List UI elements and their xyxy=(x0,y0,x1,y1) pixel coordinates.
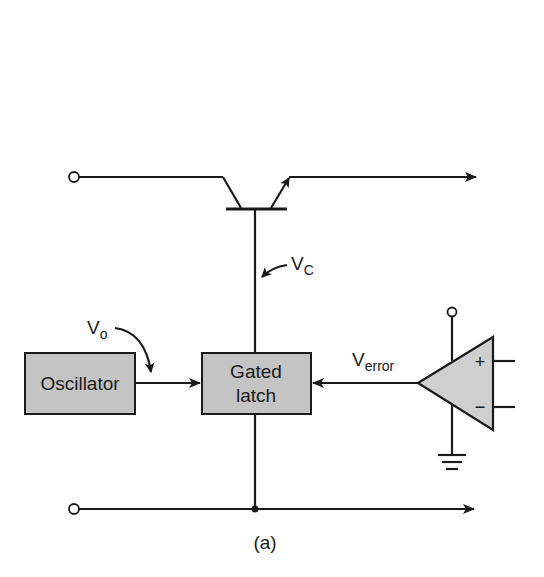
verror-label: Verror xyxy=(352,349,395,374)
minus-sign: − xyxy=(475,397,486,417)
bottom-input-terminal xyxy=(69,504,79,514)
gated-latch-label-line1: Gated xyxy=(230,361,282,382)
oscillator-label: Oscillator xyxy=(40,373,120,394)
error-amplifier: + − xyxy=(418,308,515,470)
vc-pointer-arrow xyxy=(262,265,287,277)
supply-terminal xyxy=(448,308,457,317)
oscillator-block: Oscillator xyxy=(25,353,135,414)
figure-caption: (a) xyxy=(253,532,276,553)
gated-latch-label-line2: latch xyxy=(236,385,276,406)
emitter-lead xyxy=(271,178,289,208)
circuit-diagram: VC Oscillator Vo Gated latch Verror + − xyxy=(0,0,544,577)
pass-transistor xyxy=(223,177,289,353)
junction-dot xyxy=(252,506,259,513)
top-rail-input xyxy=(69,172,223,182)
svg-text:Vo: Vo xyxy=(87,317,108,342)
plus-sign: + xyxy=(475,352,486,372)
svg-text:VC: VC xyxy=(291,253,314,278)
collector-lead xyxy=(223,177,241,208)
vc-label: VC xyxy=(262,253,314,278)
bottom-rail xyxy=(69,504,474,514)
ground-icon xyxy=(438,455,466,469)
input-terminal xyxy=(69,172,79,182)
gated-latch-block: Gated latch xyxy=(202,353,311,414)
